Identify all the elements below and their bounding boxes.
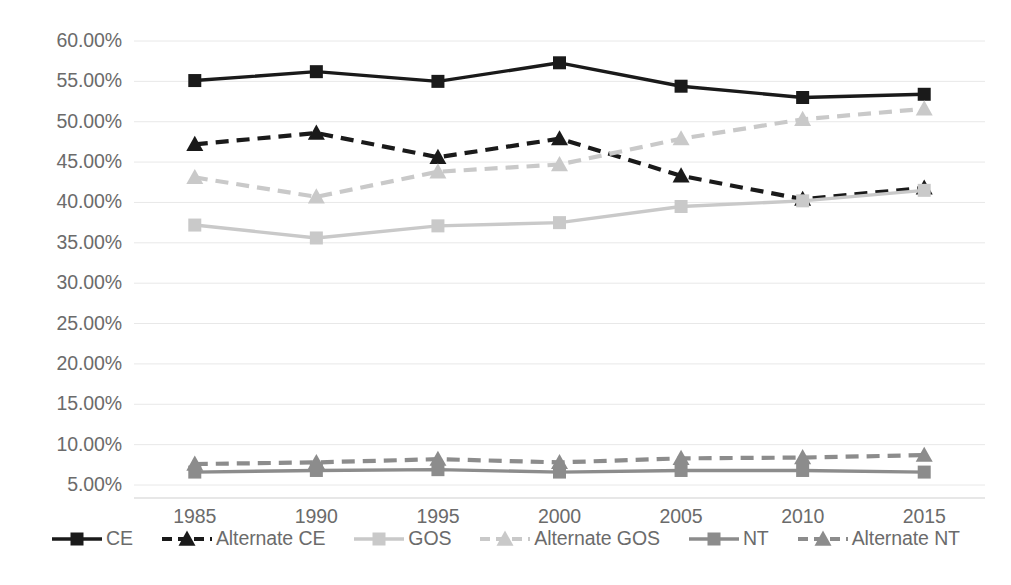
x-axis-tick-label: 2010 <box>748 505 858 528</box>
y-axis-tick-label: 35.00% <box>12 231 122 254</box>
x-axis-tick-label: 2005 <box>626 505 736 528</box>
y-axis-tick-label: 55.00% <box>12 69 122 92</box>
data-point-marker <box>918 184 931 197</box>
legend-swatch-square-solid <box>353 528 405 550</box>
gridlines <box>134 41 985 498</box>
series-layer <box>186 56 932 478</box>
data-point-marker <box>796 464 809 477</box>
legend-swatch-triangle-dashed <box>161 528 213 550</box>
legend-label: CE <box>106 527 133 550</box>
y-axis-tick-label: 5.00% <box>12 473 122 496</box>
data-point-marker <box>916 100 933 115</box>
data-point-marker <box>673 130 690 145</box>
y-axis-tick-label: 25.00% <box>12 312 122 335</box>
y-axis-tick-label: 40.00% <box>12 190 122 213</box>
series-ce <box>188 56 930 104</box>
y-axis-tick-label: 60.00% <box>12 29 122 52</box>
legend-label: NT <box>743 527 769 550</box>
legend-item-ce[interactable]: CE <box>51 527 133 550</box>
plot-area <box>0 0 1011 585</box>
legend-label: GOS <box>408 527 451 550</box>
series-alternate-nt <box>186 447 932 471</box>
data-point-marker <box>310 231 323 244</box>
data-point-marker <box>918 466 931 479</box>
legend-swatch-square-solid <box>51 528 103 550</box>
data-point-marker <box>431 219 444 232</box>
legend-label: Alternate CE <box>216 527 325 550</box>
data-point-marker <box>553 216 566 229</box>
y-axis-tick-label: 50.00% <box>12 110 122 133</box>
legend-label: Alternate GOS <box>534 527 660 550</box>
x-axis-tick-label: 1990 <box>261 505 371 528</box>
series-alternate-gos <box>186 100 932 203</box>
legend-item-alternate-nt[interactable]: Alternate NT <box>797 527 960 550</box>
data-point-marker <box>918 88 931 101</box>
data-point-marker <box>796 91 809 104</box>
legend-swatch-square-solid <box>688 528 740 550</box>
x-axis-tick-label: 1985 <box>140 505 250 528</box>
x-axis-tick-label: 2000 <box>505 505 615 528</box>
data-point-marker <box>373 532 386 545</box>
data-point-marker <box>188 74 201 87</box>
legend-swatch-triangle-dashed <box>479 528 531 550</box>
data-point-marker <box>553 56 566 69</box>
data-point-marker <box>796 194 809 207</box>
data-point-marker <box>675 200 688 213</box>
chart-legend: CEAlternate CEGOSAlternate GOSNTAlternat… <box>0 527 1011 550</box>
legend-item-alternate-gos[interactable]: Alternate GOS <box>479 527 660 550</box>
y-axis-tick-label: 20.00% <box>12 352 122 375</box>
x-axis-tick-label: 1995 <box>383 505 493 528</box>
data-point-marker <box>71 532 84 545</box>
y-axis-tick-label: 30.00% <box>12 271 122 294</box>
legend-swatch-triangle-dashed <box>797 528 849 550</box>
data-point-marker <box>431 75 444 88</box>
data-point-marker <box>707 532 720 545</box>
x-axis-tick-label: 2015 <box>869 505 979 528</box>
y-axis-tick-label: 45.00% <box>12 150 122 173</box>
legend-item-gos[interactable]: GOS <box>353 527 451 550</box>
legend-item-alternate-ce[interactable]: Alternate CE <box>161 527 325 550</box>
y-axis-tick-label: 10.00% <box>12 433 122 456</box>
legend-item-nt[interactable]: NT <box>688 527 769 550</box>
data-point-marker <box>310 65 323 78</box>
y-axis-tick-label: 15.00% <box>12 392 122 415</box>
data-point-marker <box>675 80 688 93</box>
legend-label: Alternate NT <box>852 527 960 550</box>
data-point-marker <box>188 219 201 232</box>
line-chart: 60.00%55.00%50.00%45.00%40.00%35.00%30.0… <box>0 0 1011 585</box>
data-point-marker <box>675 464 688 477</box>
